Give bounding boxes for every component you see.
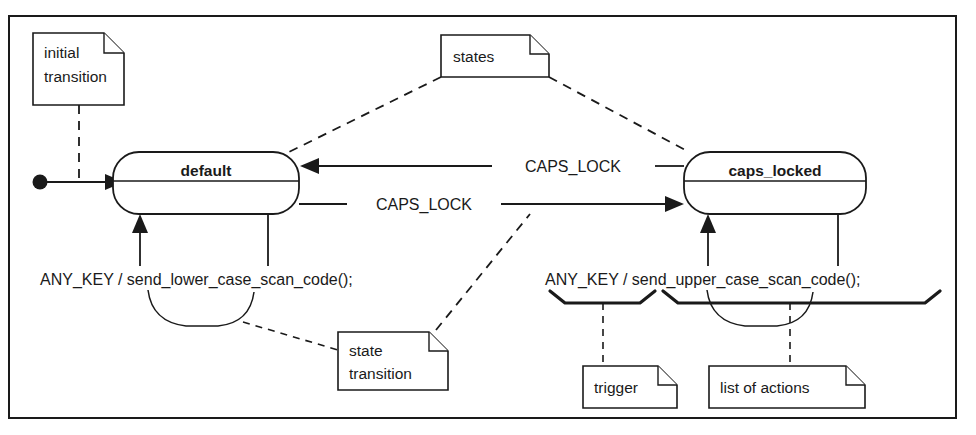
transition-caps-to-default-label: CAPS_LOCK [525,158,621,176]
transition-default-to-caps-label: CAPS_LOCK [376,196,472,214]
transition-caps-locked-self[interactable]: ANY_KEY / send_upper_case_scan_code(); [545,214,860,289]
transition-default-self-arrowhead [132,214,148,233]
note-anchor-states-to-caps-locked [549,77,689,152]
note-state-transition-line-2: transition [349,365,412,382]
initial-pseudostate-dot [33,175,48,190]
state-caps-locked-label: caps_locked [728,162,821,179]
state-caps-locked[interactable]: caps_locked [684,152,866,214]
transition-default-self[interactable]: ANY_KEY / send_lower_case_scan_code(); [40,214,353,289]
note-initial-transition-line-2: transition [44,68,107,85]
note-state-transition-line-1: state [349,342,383,359]
note-states: states [441,35,549,77]
note-trigger-line-1: trigger [594,379,638,396]
note-anchor-states-to-default [289,77,441,152]
state-default[interactable]: default [113,152,299,214]
state-machine-svg: initial transition states default caps_l… [0,0,976,435]
note-anchor-state-transition-left [243,322,338,350]
note-trigger: trigger [583,366,677,408]
note-list-of-actions: list of actions [709,366,865,408]
note-state-transition: state transition [338,332,448,390]
brace-trigger [550,291,655,303]
diagram-canvas: initial transition states default caps_l… [0,0,976,435]
transition-caps-to-default-arrowhead [300,158,319,174]
brace-state-transition-default [148,290,254,326]
brace-caps-self-inner-curve [707,290,813,326]
transition-default-self-label: ANY_KEY / send_lower_case_scan_code(); [40,271,353,289]
note-anchor-state-transition-right [436,214,530,330]
transition-caps-self-label: ANY_KEY / send_upper_case_scan_code(); [545,271,860,289]
note-list-of-actions-line-1: list of actions [720,379,810,396]
note-states-line-1: states [453,48,495,65]
transition-default-to-caps-arrowhead [665,196,684,212]
state-default-label: default [181,162,232,179]
brace-list-of-actions [663,291,940,303]
transition-caps-locked-to-default[interactable]: CAPS_LOCK [300,158,684,176]
note-initial-transition: initial transition [33,33,124,105]
transition-caps-self-arrowhead [700,214,716,233]
transition-default-to-caps-locked[interactable]: CAPS_LOCK [299,196,684,214]
note-initial-transition-line-1: initial [44,44,79,61]
